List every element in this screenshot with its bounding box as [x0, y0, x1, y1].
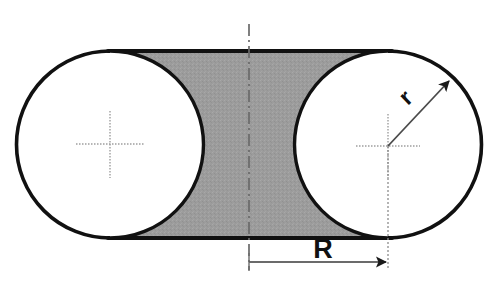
small-radius-label: r: [393, 85, 418, 110]
figure-canvas: r R: [0, 0, 502, 289]
right-end-cap-arc: [388, 51, 482, 238]
left-end-cap-arc: [17, 51, 111, 238]
geometry-diagram: r R: [0, 0, 502, 289]
large-radius-label: R: [313, 234, 333, 264]
